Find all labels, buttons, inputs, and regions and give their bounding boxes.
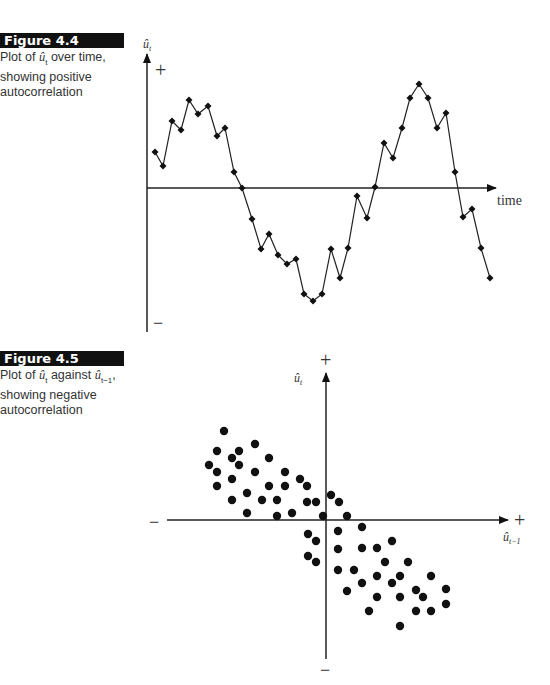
data-point-marker — [239, 185, 246, 192]
y-axis-label: ût — [143, 37, 152, 53]
scatter-point — [334, 545, 342, 553]
scatter-point — [365, 607, 373, 615]
y-minus-marker: − — [320, 660, 330, 680]
data-point-marker — [425, 95, 432, 102]
scatter-point — [243, 489, 251, 497]
scatter-point — [442, 585, 450, 593]
data-point-marker — [434, 125, 441, 132]
scatter-point — [343, 587, 351, 595]
data-point-marker — [416, 81, 423, 88]
scatter-point — [373, 544, 381, 552]
scatter-point — [427, 572, 435, 580]
scatter-point — [251, 468, 259, 476]
scatter-point — [312, 558, 320, 566]
figure-4-4-chart: ût + − time — [143, 37, 522, 333]
series-line — [155, 84, 490, 301]
data-point-marker — [390, 155, 397, 162]
data-point-marker — [258, 246, 265, 253]
scatter-point — [381, 558, 389, 566]
scatter-point — [235, 461, 243, 469]
scatter-point — [281, 482, 289, 490]
data-point-marker — [372, 184, 379, 191]
scatter-point — [442, 600, 450, 608]
scatter-point — [304, 530, 312, 538]
scatter-point — [312, 498, 320, 506]
scatter-point — [228, 475, 236, 483]
scatter-points — [205, 427, 450, 630]
data-point-marker — [364, 215, 371, 222]
scatter-point — [273, 512, 281, 520]
scatter-point — [235, 447, 243, 455]
scatter-point — [220, 427, 228, 435]
data-point-marker — [328, 246, 335, 253]
y-plus-marker: + — [320, 349, 331, 371]
scatter-point — [303, 482, 311, 490]
scatter-point — [350, 566, 358, 574]
scatter-point — [205, 461, 213, 469]
scatter-point — [427, 607, 435, 615]
scatter-point — [265, 454, 273, 462]
scatter-point — [396, 622, 404, 630]
data-point-marker — [443, 110, 450, 117]
data-point-marker — [266, 231, 273, 238]
scatter-point — [304, 552, 312, 560]
data-point-marker — [354, 193, 361, 200]
scatter-point — [373, 593, 381, 601]
y-minus-marker: − — [153, 313, 163, 333]
x-axis-label: time — [497, 193, 522, 208]
series-markers — [152, 81, 494, 305]
data-point-marker — [337, 275, 344, 282]
x-minus-marker: − — [149, 512, 159, 532]
data-point-marker — [399, 125, 406, 132]
scatter-point — [373, 572, 381, 580]
scatter-point — [335, 498, 343, 506]
scatter-point — [334, 566, 342, 574]
data-point-marker — [152, 149, 159, 156]
scatter-point — [312, 537, 320, 545]
scatter-point — [288, 509, 296, 517]
data-point-marker — [381, 140, 388, 147]
data-point-marker — [186, 97, 193, 104]
data-point-marker — [293, 256, 300, 263]
scatter-point — [213, 468, 221, 476]
scatter-point — [265, 482, 273, 490]
scatter-point — [273, 496, 281, 504]
scatter-point — [251, 440, 259, 448]
scatter-point — [388, 579, 396, 587]
data-point-marker — [345, 245, 352, 252]
scatter-point — [358, 544, 366, 552]
scatter-point — [296, 475, 304, 483]
scatter-point — [358, 523, 366, 531]
data-point-marker — [160, 163, 167, 170]
scatter-point — [258, 496, 266, 504]
scatter-point — [213, 482, 221, 490]
scatter-point — [319, 512, 327, 520]
scatter-point — [388, 537, 396, 545]
y-plus-marker: + — [155, 59, 166, 81]
scatter-point — [228, 496, 236, 504]
scatter-point — [281, 468, 289, 476]
x-plus-marker: + — [514, 509, 525, 531]
scatter-point — [419, 593, 427, 601]
scatter-point — [334, 527, 342, 535]
scatter-point — [396, 593, 404, 601]
data-point-marker — [249, 216, 256, 223]
data-point-marker — [231, 169, 238, 176]
scatter-point — [412, 607, 420, 615]
scatter-point — [303, 498, 311, 506]
scatter-point — [213, 447, 221, 455]
scatter-point — [412, 586, 420, 594]
scatter-point — [343, 512, 351, 520]
scatter-point — [404, 558, 412, 566]
y-axis-label: ût — [294, 371, 303, 387]
scatter-point — [228, 454, 236, 462]
scatter-point — [327, 491, 335, 499]
scatter-point — [243, 509, 251, 517]
data-point-marker — [407, 95, 414, 102]
data-point-marker — [452, 169, 459, 176]
scatter-point — [396, 572, 404, 580]
charts-canvas: ût + − time + − − + ût ût−1 — [0, 0, 550, 685]
x-axis-label: ût−1 — [503, 530, 521, 546]
data-point-marker — [487, 275, 494, 282]
data-point-marker — [478, 245, 485, 252]
